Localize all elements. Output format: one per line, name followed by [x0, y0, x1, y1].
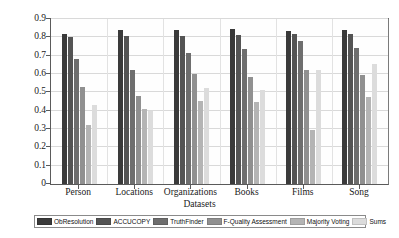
y-tick-label: 0.2 [6, 142, 46, 151]
x-tick-mark [247, 185, 248, 189]
legend-item[interactable]: TruthFinder [153, 218, 203, 225]
y-tick-label: 0.4 [6, 106, 46, 115]
bar-group [118, 19, 153, 184]
legend-item[interactable]: F-Quality Assessment [207, 218, 287, 225]
bar [124, 36, 129, 185]
bar [304, 70, 309, 184]
legend-label: ObResolution [54, 218, 93, 225]
x-tick-mark [303, 185, 304, 189]
legend-swatch [96, 218, 111, 225]
bar [62, 34, 67, 184]
chart-legend: ObResolutionACCUCOPYTruthFinderF-Quality… [34, 215, 366, 228]
bar [192, 74, 197, 184]
y-tick-label: 0.6 [6, 69, 46, 78]
bar [174, 30, 179, 184]
y-tick-label: 0.5 [6, 87, 46, 96]
y-tick-label: 0.7 [6, 51, 46, 60]
legend-label: Sums [369, 218, 386, 225]
bar [260, 90, 265, 184]
bar [248, 77, 253, 184]
bar [360, 75, 365, 184]
bar-layer [51, 19, 388, 184]
bar-group [342, 19, 377, 184]
bar-group [286, 19, 321, 184]
legend-item[interactable]: ObResolution [37, 218, 93, 225]
y-tick-mark [46, 91, 50, 92]
y-tick-mark [46, 146, 50, 147]
bar [136, 96, 141, 184]
bar [80, 87, 85, 184]
bar [366, 97, 371, 184]
y-tick-label: 0.8 [6, 32, 46, 41]
legend-swatch [352, 218, 367, 225]
bar-group [62, 19, 97, 184]
bar [310, 130, 315, 184]
bar [148, 111, 153, 184]
y-tick-label: 0.9 [6, 14, 46, 23]
bar [254, 102, 259, 184]
legend-label: F-Quality Assessment [224, 218, 287, 225]
bar [68, 37, 73, 184]
x-tick-mark [359, 185, 360, 189]
x-tick-mark [78, 185, 79, 189]
y-tick-mark [46, 73, 50, 74]
bar [298, 41, 303, 184]
bar [92, 105, 97, 184]
legend-item[interactable]: Majority Voting [290, 218, 350, 225]
bar [198, 101, 203, 184]
y-tick-label: 0.3 [6, 124, 46, 133]
legend-label: Majority Voting [307, 218, 350, 225]
y-tick-mark [46, 55, 50, 56]
x-tick-mark [134, 185, 135, 189]
bar [180, 36, 185, 185]
legend-swatch [153, 218, 168, 225]
y-tick-mark [46, 18, 50, 19]
bar-group [230, 19, 265, 184]
bar [354, 48, 359, 184]
legend-swatch [37, 218, 52, 225]
bar [74, 59, 79, 184]
y-tick-mark [46, 36, 50, 37]
bar [142, 109, 147, 184]
bar [316, 70, 321, 184]
legend-label: TruthFinder [170, 218, 203, 225]
y-tick-mark [46, 183, 50, 184]
legend-item[interactable]: ACCUCOPY [96, 218, 150, 225]
bar [118, 30, 123, 184]
legend-swatch [290, 218, 305, 225]
bar [86, 125, 91, 184]
y-tick-mark [46, 128, 50, 129]
chart-figure: Accuracy 00.10.20.30.40.50.60.70.80.9 Pe… [0, 0, 399, 238]
bar [348, 34, 353, 184]
legend-label: ACCUCOPY [113, 218, 150, 225]
bar [130, 70, 135, 184]
bar [292, 34, 297, 184]
bar [242, 49, 247, 184]
bar [342, 30, 347, 184]
bar [204, 88, 209, 184]
bar [372, 64, 377, 184]
plot-area [50, 18, 389, 185]
y-tick-mark [46, 165, 50, 166]
legend-item[interactable]: Sums [352, 218, 386, 225]
bar [186, 53, 191, 184]
bar [230, 29, 235, 184]
x-tick-mark [190, 185, 191, 189]
x-axis-label: Datasets [0, 199, 399, 209]
bar [286, 31, 291, 184]
bar-group [174, 19, 209, 184]
y-tick-label: 0.1 [6, 161, 46, 170]
y-tick-mark [46, 110, 50, 111]
legend-swatch [207, 218, 222, 225]
bar [236, 35, 241, 184]
